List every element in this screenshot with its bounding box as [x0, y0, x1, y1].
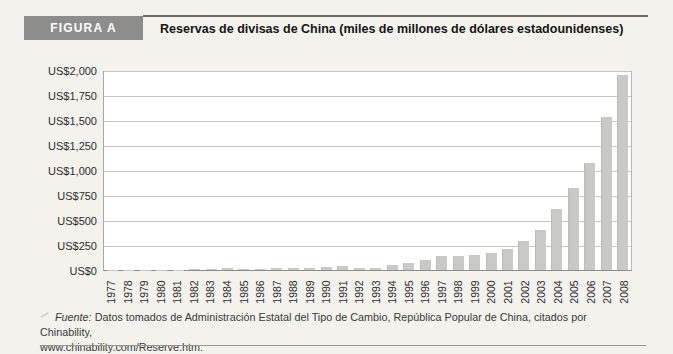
- x-tick-label: 1980: [155, 280, 167, 303]
- bar: [518, 241, 529, 270]
- x-tick-slot: 2008: [615, 273, 632, 311]
- y-tick-label: US$1,500: [0, 115, 97, 127]
- bar-slot: [285, 71, 301, 270]
- x-tick-label: 1992: [353, 280, 365, 303]
- x-tick-slot: 2002: [516, 273, 533, 311]
- y-tick-label: US$500: [0, 215, 97, 227]
- bar-slot: [615, 71, 631, 270]
- figure-title: Reservas de divisas de China (miles de m…: [160, 16, 623, 42]
- x-tick-label: 1987: [271, 280, 283, 303]
- x-tick-label: 1984: [221, 280, 233, 303]
- y-tick-label: US$0: [0, 265, 97, 277]
- x-tick-slot: 1995: [401, 273, 418, 311]
- bars-layer: [104, 71, 631, 270]
- x-tick-slot: 1989: [301, 273, 318, 311]
- x-tick-slot: 1998: [450, 273, 467, 311]
- x-tick-label: 2005: [568, 280, 580, 303]
- bar-slot: [153, 71, 169, 270]
- bar: [304, 268, 315, 270]
- source-prefix: Fuente:: [55, 311, 92, 323]
- x-tick-slot: 2001: [500, 273, 517, 311]
- x-tick-slot: 1984: [219, 273, 236, 311]
- bar-slot: [417, 71, 433, 270]
- bar-slot: [400, 71, 416, 270]
- bar-slot: [499, 71, 515, 270]
- x-tick-slot: 1988: [285, 273, 302, 311]
- bar: [535, 230, 546, 270]
- x-tick-slot: 2003: [533, 273, 550, 311]
- y-tick-label: US$750: [0, 190, 97, 202]
- x-tick-label: 1991: [337, 280, 349, 303]
- y-axis-labels: US$0US$250US$500US$750US$1,000US$1,250US…: [0, 71, 97, 271]
- x-tick-slot: 1997: [434, 273, 451, 311]
- x-tick-label: 1989: [304, 280, 316, 303]
- bar: [271, 268, 282, 270]
- bar-slot: [582, 71, 598, 270]
- x-tick-slot: 1977: [103, 273, 120, 311]
- x-tick-label: 2000: [485, 280, 497, 303]
- bar: [321, 267, 332, 270]
- bar: [222, 268, 233, 270]
- x-tick-label: 1982: [188, 280, 200, 303]
- bar: [354, 268, 365, 270]
- x-tick-slot: 1983: [202, 273, 219, 311]
- bar-slot: [269, 71, 285, 270]
- bar: [568, 188, 579, 270]
- x-tick-slot: 1979: [136, 273, 153, 311]
- bar-slot: [565, 71, 581, 270]
- x-tick-label: 1993: [370, 280, 382, 303]
- bar: [206, 269, 217, 270]
- bar: [403, 263, 414, 270]
- bar-slot: [219, 71, 235, 270]
- x-tick-slot: 2000: [483, 273, 500, 311]
- x-tick-slot: 1999: [467, 273, 484, 311]
- figure-panel: FIGURA A Reservas de divisas de China (m…: [0, 0, 673, 354]
- bar-slot: [236, 71, 252, 270]
- x-tick-slot: 1981: [169, 273, 186, 311]
- bar-slot: [532, 71, 548, 270]
- x-tick-slot: 1986: [252, 273, 269, 311]
- bar-slot: [450, 71, 466, 270]
- x-tick-label: 1978: [122, 280, 134, 303]
- bar: [436, 256, 447, 270]
- x-tick-label: 1990: [320, 280, 332, 303]
- x-tick-slot: 1996: [417, 273, 434, 311]
- bar-slot: [170, 71, 186, 270]
- bar: [453, 256, 464, 271]
- x-tick-slot: 2004: [549, 273, 566, 311]
- figure-label: FIGURA A: [50, 21, 117, 35]
- bar: [486, 253, 497, 270]
- source-text: Datos tomados de Administración Estatal …: [40, 311, 587, 338]
- x-tick-label: 2004: [552, 280, 564, 303]
- bar-slot: [104, 71, 120, 270]
- y-tick-label: US$1,750: [0, 90, 97, 102]
- y-tick-label: US$1,000: [0, 165, 97, 177]
- bar: [288, 268, 299, 270]
- bottom-rule: [40, 345, 646, 346]
- bar-slot: [516, 71, 532, 270]
- x-tick-label: 2006: [585, 280, 597, 303]
- bar: [255, 269, 266, 270]
- x-tick-slot: 1985: [235, 273, 252, 311]
- plot-area: [103, 71, 632, 271]
- x-tick-slot: 1994: [384, 273, 401, 311]
- x-tick-label: 1988: [287, 280, 299, 303]
- x-tick-label: 1997: [436, 280, 448, 303]
- x-tick-label: 1983: [204, 280, 216, 303]
- x-tick-label: 2008: [618, 280, 630, 303]
- bar: [420, 260, 431, 271]
- bar: [617, 75, 628, 270]
- x-tick-label: 2003: [535, 280, 547, 303]
- bar: [601, 117, 612, 270]
- x-tick-label: 2001: [502, 280, 514, 303]
- x-tick-label: 1996: [419, 280, 431, 303]
- bar: [337, 266, 348, 270]
- bar: [502, 249, 513, 270]
- bar: [370, 268, 381, 270]
- bar: [551, 209, 562, 270]
- source-line-1: Fuente: Datos tomados de Administración …: [40, 310, 640, 340]
- bar-slot: [335, 71, 351, 270]
- x-tick-slot: 2007: [599, 273, 616, 311]
- bar-slot: [549, 71, 565, 270]
- bar-slot: [252, 71, 268, 270]
